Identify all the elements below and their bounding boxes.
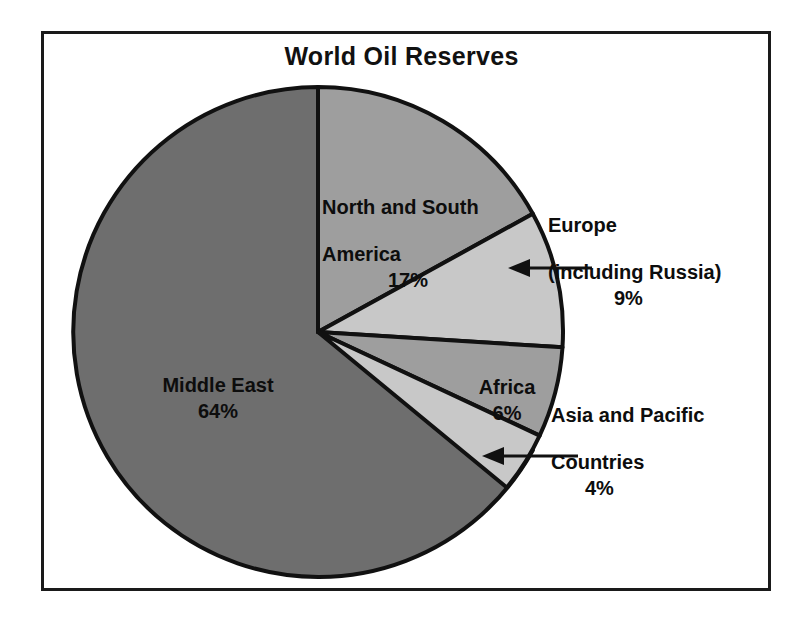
slice-label-europe-including-russia: Europe (including Russia) 9% bbox=[548, 190, 778, 335]
slice-percent-europe: 9% bbox=[614, 287, 778, 311]
slice-label-line2: Countries bbox=[551, 451, 644, 473]
chart-page: World Oil Reserves North and South Ameri… bbox=[0, 0, 803, 621]
slice-label-line2: America bbox=[322, 243, 401, 265]
slice-percent-asia-and-pacific: 4% bbox=[585, 477, 781, 501]
slice-percent-africa: 6% bbox=[452, 402, 562, 426]
slice-label-africa: Africa 6% bbox=[452, 352, 562, 449]
slice-label-line1: Africa bbox=[479, 376, 536, 398]
slice-label-line2: (including Russia) bbox=[548, 261, 721, 283]
slice-label-north-and-south-america: North and South America 17% bbox=[322, 172, 522, 317]
slice-label-line1: North and South bbox=[322, 196, 479, 218]
slice-label-line1: Asia and Pacific bbox=[551, 404, 704, 426]
slice-percent-middle-east: 64% bbox=[128, 400, 308, 424]
slice-label-middle-east: Middle East 64% bbox=[128, 350, 308, 447]
slice-percent-north-and-south-america: 17% bbox=[322, 269, 494, 293]
slice-label-line1: Middle East bbox=[162, 374, 273, 396]
slice-label-line1: Europe bbox=[548, 214, 617, 236]
slice-label-asia-and-pacific-countries: Asia and Pacific Countries 4% bbox=[551, 380, 781, 525]
